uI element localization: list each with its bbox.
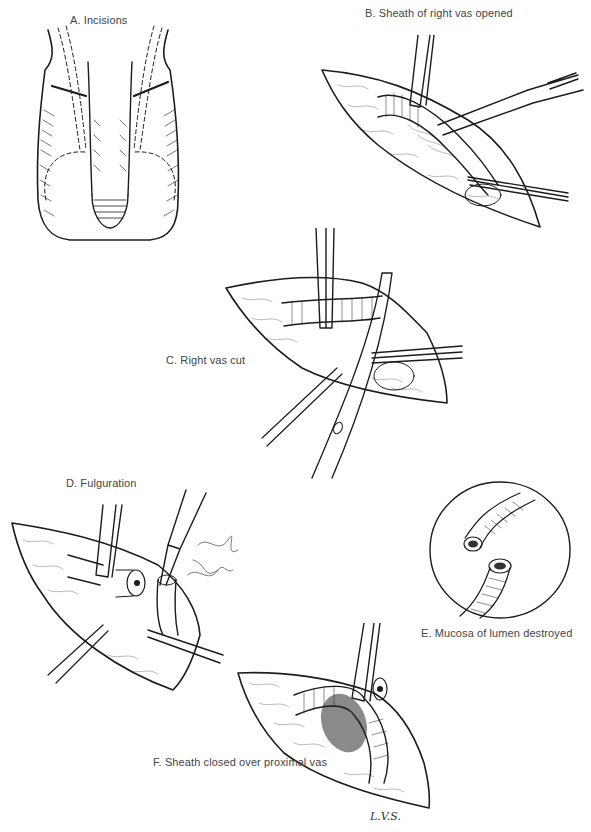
panel-a-incisions — [10, 0, 200, 250]
mucosa-destroyed-illustration — [425, 478, 575, 623]
incisions-illustration — [10, 0, 200, 250]
panel-a-label: A. Incisions — [70, 14, 127, 26]
panel-e-label: E. Mucosa of lumen destroyed — [421, 627, 572, 639]
panel-b-label: B. Sheath of right vas opened — [365, 7, 513, 19]
sheath-opened-illustration — [318, 35, 591, 235]
panel-f-label: F. Sheath closed over proximal vas — [153, 756, 327, 768]
sheath-closed-illustration — [234, 623, 434, 813]
panel-f-sheath-closed — [234, 623, 434, 813]
artist-signature: L.V.S. — [370, 810, 401, 823]
fulguration-illustration — [8, 485, 263, 700]
panel-d-fulguration — [8, 485, 263, 700]
vas-cut-illustration — [222, 228, 467, 488]
panel-b-sheath-opened — [318, 35, 591, 235]
panel-c-vas-cut — [222, 228, 467, 488]
panel-e-mucosa-destroyed — [425, 478, 575, 623]
